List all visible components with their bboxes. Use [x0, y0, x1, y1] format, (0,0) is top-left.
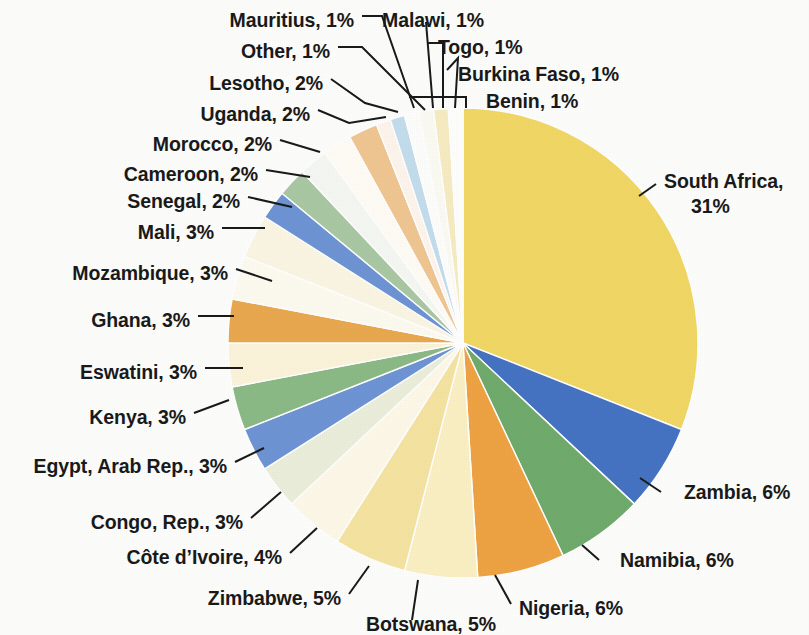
- pie-label-namibia: Namibia, 6%: [620, 549, 734, 572]
- pie-label-egypt: Egypt, Arab Rep., 3%: [34, 455, 227, 478]
- pie-label-burkina-faso: Burkina Faso, 1%: [458, 63, 619, 86]
- pie-label-senegal: Senegal, 2%: [127, 190, 240, 213]
- pie-slices-group: [228, 108, 698, 578]
- leader-line-zimbabwe: [349, 566, 369, 594]
- leader-line-morocco: [280, 140, 320, 152]
- pie-label-cameroon: Cameroon, 2%: [124, 163, 258, 186]
- leader-line-burkina-faso: [447, 58, 458, 108]
- pie-label-mozambique: Mozambique, 3%: [72, 262, 228, 285]
- leader-line-kenya: [194, 400, 229, 413]
- pie-label-botswana: Botswana, 5%: [366, 613, 496, 635]
- pie-label-morocco: Morocco, 2%: [153, 133, 272, 156]
- leader-line-nigeria: [495, 575, 511, 604]
- pie-label-zimbabwe: Zimbabwe, 5%: [208, 587, 341, 610]
- pie-label-zambia: Zambia, 6%: [684, 481, 790, 504]
- leader-line-namibia: [582, 545, 599, 560]
- pie-label-cote-divoire: Côte d’Ivoire, 4%: [127, 546, 282, 569]
- pie-label-malawi: Malawi, 1%: [382, 9, 484, 32]
- leader-line-lesotho: [331, 79, 398, 112]
- leader-line-cote-divoire: [290, 528, 317, 553]
- pie-label-south-africa-pct: 31%: [691, 195, 730, 218]
- leader-line-malawi: [426, 22, 433, 108]
- pie-label-south-africa: South Africa,: [664, 170, 783, 193]
- pie-label-other: Other, 1%: [241, 40, 330, 63]
- pie-label-eswatini: Eswatini, 3%: [80, 361, 197, 384]
- leader-line-congo: [251, 492, 281, 518]
- pie-label-congo: Congo, Rep., 3%: [91, 511, 243, 534]
- pie-label-lesotho: Lesotho, 2%: [209, 72, 323, 95]
- pie-label-mauritius: Mauritius, 1%: [230, 9, 354, 32]
- pie-chart-figure: Mauritius, 1%Malawi, 1%Other, 1%Togo, 1%…: [0, 0, 809, 635]
- pie-label-kenya: Kenya, 3%: [89, 406, 186, 429]
- pie-label-benin: Benin, 1%: [486, 90, 578, 113]
- pie-label-togo: Togo, 1%: [438, 36, 522, 59]
- pie-label-uganda: Uganda, 2%: [200, 103, 310, 126]
- pie-label-mali: Mali, 3%: [138, 221, 214, 244]
- pie-label-ghana: Ghana, 3%: [91, 309, 190, 332]
- pie-label-nigeria: Nigeria, 6%: [519, 597, 623, 620]
- leader-line-uganda: [318, 110, 386, 123]
